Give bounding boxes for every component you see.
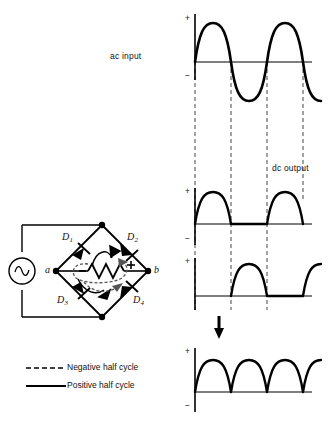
diode-d3-label: D3 [57,294,68,307]
node-top [99,222,105,228]
node-bottom [99,314,105,320]
plot-ac-input [195,14,321,101]
legend-samples [26,368,66,386]
diode-d4-label: D4 [133,294,144,307]
hw-pos-minus-tick: − [185,233,190,243]
hw-neg-plus-tick: + [185,256,190,266]
hw-neg-trace [231,264,321,296]
ac-input-plus-tick: + [185,13,190,23]
dc-out-plus-tick: + [185,346,190,356]
load-plus-mark [127,261,135,269]
dc-out-trace [195,360,321,392]
ac-source-icon [9,258,35,284]
hw-pos-plus-tick: + [185,186,190,196]
legend-item-positive: Positive half cycle [67,380,135,390]
node-b-label: b [154,264,159,275]
figure-canvas [0,0,328,426]
figure-root: ac input dc output + − + − + + − a b D1 … [0,0,328,426]
plot-half-wave-positive [195,188,312,245]
load-branch [56,264,148,278]
node-a-label: a [45,264,50,275]
hw-pos-trace [195,192,303,224]
transition-arrow-icon [214,316,224,339]
ac-input-minus-tick: − [185,70,190,80]
dc-out-minus-tick: − [185,400,190,410]
plot-dc-output [195,348,321,412]
ac-input-label: ac input [110,51,141,61]
diode-d1-label: D1 [62,231,73,244]
plot-half-wave-negative [195,258,321,310]
guide-lines [195,62,303,310]
load-resistor-icon [88,264,124,278]
diode-d2-label: D2 [127,231,138,244]
dc-output-label: dc output [272,163,309,173]
legend-item-negative: Negative half cycle [67,362,138,372]
